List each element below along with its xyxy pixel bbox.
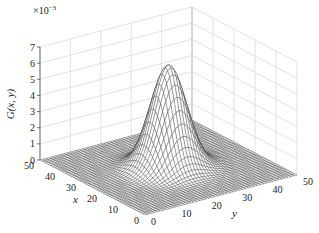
- wall-gridline: [192, 7, 297, 62]
- y-tick-label: 50: [303, 176, 313, 187]
- wall-gridline: [192, 72, 297, 127]
- wall-gridline: [192, 39, 297, 94]
- wall-gridline: [192, 55, 297, 110]
- y-tick-label: 0: [151, 216, 156, 227]
- z-exponent-label: ×10−3: [33, 4, 57, 16]
- y-tick-label: 30: [242, 192, 252, 203]
- y-axis-label: y: [231, 207, 237, 219]
- z-tick-label: 4: [30, 90, 35, 101]
- z-tick-label: 7: [30, 42, 35, 53]
- wall-gridline: [40, 23, 192, 63]
- wall-gridline: [192, 23, 297, 78]
- x-axis-label: x: [72, 193, 78, 205]
- wall-gridline: [40, 7, 192, 47]
- y-tick-label: 40: [273, 184, 283, 195]
- z-tick-label: 6: [30, 58, 35, 69]
- surface-plot: 01234567 01020304050 01020304050 ×10−3 G…: [0, 0, 319, 233]
- y-tick-label: 10: [181, 208, 191, 219]
- z-tick-label: 2: [30, 122, 35, 133]
- z-tick-label: 3: [30, 106, 35, 117]
- gaussian-surface-mesh: [40, 65, 297, 215]
- x-tick-label: 10: [108, 204, 118, 215]
- z-axis: 01234567: [30, 42, 40, 166]
- x-tick-label: 40: [45, 171, 55, 182]
- z-tick-label: 5: [30, 74, 35, 85]
- z-tick-label: 1: [30, 138, 35, 149]
- x-tick-label: 20: [87, 193, 97, 204]
- x-tick-label: 30: [66, 182, 76, 193]
- y-tick-label: 20: [212, 200, 222, 211]
- z-axis-label: G(x, y): [4, 88, 17, 119]
- x-tick-label: 0: [134, 215, 139, 226]
- x-tick-label: 50: [24, 160, 34, 171]
